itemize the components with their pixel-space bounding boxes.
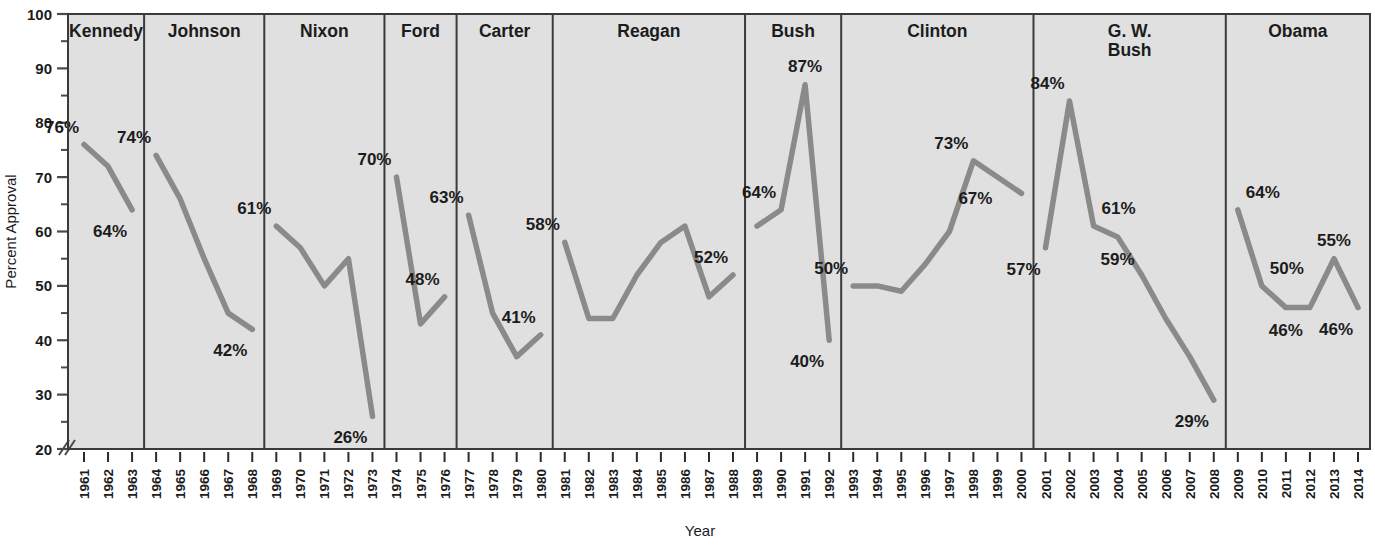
x-tick-label: 1977: [462, 469, 477, 499]
x-tick-label: 1999: [990, 469, 1005, 499]
y-tick-label: 20: [35, 441, 52, 458]
x-tick-label: 2001: [1039, 469, 1054, 500]
x-tick-label: 1972: [341, 469, 356, 499]
x-tick-label: 1987: [702, 469, 717, 499]
x-tick-label: 1981: [558, 469, 573, 500]
x-tick-label: 1983: [606, 469, 621, 500]
x-tick-label: 2012: [1303, 469, 1318, 499]
x-tick-label: 1984: [630, 469, 645, 500]
x-tick-label: 1997: [942, 469, 957, 499]
y-tick-label: 30: [35, 386, 52, 403]
x-tick-label: 2005: [1135, 469, 1150, 500]
data-label: 61%: [1102, 199, 1136, 218]
x-tick-label: 2008: [1207, 469, 1222, 500]
panel-title: Obama: [1268, 21, 1328, 41]
x-tick-label: 1964: [149, 469, 164, 500]
x-tick-label: 1976: [438, 469, 453, 500]
x-tick-label: 1974: [389, 469, 404, 500]
panel-title: Kennedy: [69, 21, 143, 41]
data-label: 61%: [237, 199, 271, 218]
x-tick-label: 1978: [486, 469, 501, 500]
x-tick-label: 1966: [197, 469, 212, 500]
x-tick-label: 2003: [1087, 469, 1102, 500]
approval-line-chart: 2030405060708090100Percent Approval19611…: [0, 0, 1375, 547]
x-tick-label: 1992: [822, 469, 837, 499]
x-tick-label: 2006: [1159, 469, 1174, 500]
x-tick-label: 1993: [846, 469, 861, 500]
x-tick-label: 1961: [77, 469, 92, 500]
data-label: 76%: [45, 118, 79, 137]
x-tick-label: 2011: [1279, 469, 1294, 499]
y-tick-label: 70: [35, 169, 52, 186]
x-tick-label: 1970: [293, 469, 308, 499]
x-tick-label: 1996: [918, 469, 933, 500]
x-tick-label: 2002: [1063, 469, 1078, 499]
data-label: 63%: [430, 188, 464, 207]
x-tick-label: 1965: [173, 469, 188, 500]
x-tick-label: 1995: [894, 469, 909, 500]
x-tick-label: 1985: [654, 469, 669, 500]
data-label: 67%: [958, 189, 992, 208]
data-label: 48%: [406, 270, 440, 289]
x-tick-label: 2010: [1255, 469, 1270, 499]
data-label: 46%: [1269, 321, 1303, 340]
x-tick-label: 1998: [966, 469, 981, 500]
data-label: 55%: [1317, 231, 1351, 250]
x-tick-label: 1967: [221, 469, 236, 499]
x-tick-label: 1994: [870, 469, 885, 500]
data-label: 50%: [814, 259, 848, 278]
y-tick-label: 90: [35, 60, 52, 77]
data-label: 59%: [1101, 250, 1135, 269]
data-label: 40%: [790, 352, 824, 371]
panel-title: Clinton: [907, 21, 967, 41]
data-label: 84%: [1031, 74, 1065, 93]
x-tick-label: 2007: [1183, 469, 1198, 499]
x-tick-label: 1968: [245, 469, 260, 500]
x-tick-label: 2014: [1351, 469, 1366, 500]
data-label: 46%: [1319, 320, 1353, 339]
data-label: 64%: [1246, 183, 1280, 202]
data-label: 50%: [1270, 259, 1304, 278]
x-tick-label: 1989: [750, 469, 765, 499]
data-label: 64%: [742, 183, 776, 202]
panel-title: Ford: [401, 21, 440, 41]
y-tick-label: 60: [35, 223, 52, 240]
data-label: 73%: [934, 134, 968, 153]
x-tick-label: 1986: [678, 469, 693, 500]
data-label: 26%: [333, 428, 367, 447]
x-tick-label: 1975: [414, 469, 429, 500]
x-tick-label: 1962: [101, 469, 116, 499]
panel-title: Carter: [479, 21, 531, 41]
x-tick-label: 1963: [125, 469, 140, 500]
y-tick-label: 40: [35, 332, 52, 349]
x-tick-label: 1990: [774, 469, 789, 499]
panel-title: G. W.: [1108, 21, 1152, 41]
x-tick-label: 1991: [798, 469, 813, 500]
panel-title: Bush: [771, 21, 815, 41]
x-tick-label: 1988: [726, 469, 741, 500]
x-tick-label: 1982: [582, 469, 597, 499]
x-tick-label: 2004: [1111, 469, 1126, 500]
y-axis-title: Percent Approval: [2, 174, 19, 288]
data-label: 74%: [117, 128, 151, 147]
data-label: 42%: [213, 341, 247, 360]
data-label: 29%: [1175, 412, 1209, 431]
x-axis: 1961196219631964196519661967196819691970…: [77, 452, 1366, 499]
x-tick-label: 1979: [510, 469, 525, 499]
data-label: 58%: [526, 215, 560, 234]
panel-title: Bush: [1108, 40, 1152, 60]
panel-title: Nixon: [300, 21, 349, 41]
x-tick-label: 2013: [1327, 469, 1342, 500]
panel-title: Reagan: [617, 21, 680, 41]
x-tick-label: 1969: [269, 469, 284, 499]
data-label: 87%: [788, 57, 822, 76]
x-tick-label: 1980: [534, 469, 549, 499]
y-tick-label: 100: [27, 6, 52, 23]
chart-container: 2030405060708090100Percent Approval19611…: [0, 0, 1375, 547]
data-label: 57%: [1006, 260, 1040, 279]
x-tick-label: 2000: [1014, 469, 1029, 499]
data-label: 41%: [502, 308, 536, 327]
data-label: 52%: [694, 248, 728, 267]
x-tick-label: 2009: [1231, 469, 1246, 499]
panel-title: Johnson: [168, 21, 241, 41]
